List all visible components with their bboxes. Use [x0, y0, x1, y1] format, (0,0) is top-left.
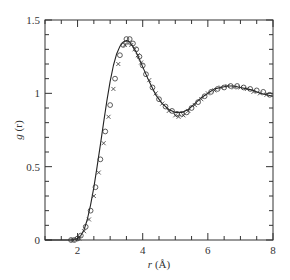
x-axis-ticks: 2468	[45, 20, 276, 256]
data-point-circle	[103, 129, 108, 134]
x-tick-label: 4	[140, 244, 146, 256]
data-point-circle	[108, 103, 113, 108]
y-tick-label: 0	[35, 234, 41, 246]
y-tick-label: 1.5	[26, 14, 40, 26]
plot-border	[45, 20, 273, 240]
y-tick-label: 1	[35, 87, 41, 99]
y-axis-ticks: 00.511.5	[26, 14, 273, 246]
rdf-chart: 2468 00.511.5 r (Å) g (r)	[0, 0, 290, 280]
data-point-circle	[127, 37, 132, 42]
data-point-circle	[118, 53, 123, 58]
y-tick-label: 0.5	[26, 161, 40, 173]
x-tick-label: 6	[205, 244, 211, 256]
y-axis-label: g (r)	[12, 120, 25, 140]
x-axis-label: r (Å)	[148, 258, 171, 271]
data-point-circle	[113, 76, 118, 81]
x-tick-label: 8	[270, 244, 276, 256]
model-curve	[45, 41, 273, 241]
x-tick-label: 2	[75, 244, 81, 256]
plot-frame	[45, 20, 273, 240]
data-series-layer	[45, 37, 273, 243]
